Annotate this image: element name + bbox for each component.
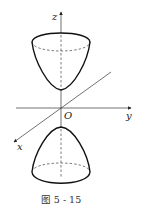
lower-rim-front xyxy=(32,172,90,183)
x-axis xyxy=(14,72,111,142)
origin-label: O xyxy=(64,110,72,121)
figure-caption: 图 5 - 15 xyxy=(41,194,81,205)
hyperboloid-diagram: z y x O 图 5 - 15 xyxy=(0,0,142,215)
y-axis-label: y xyxy=(125,110,132,121)
x-axis-label: x xyxy=(17,141,23,152)
z-axis-label: z xyxy=(51,11,58,22)
